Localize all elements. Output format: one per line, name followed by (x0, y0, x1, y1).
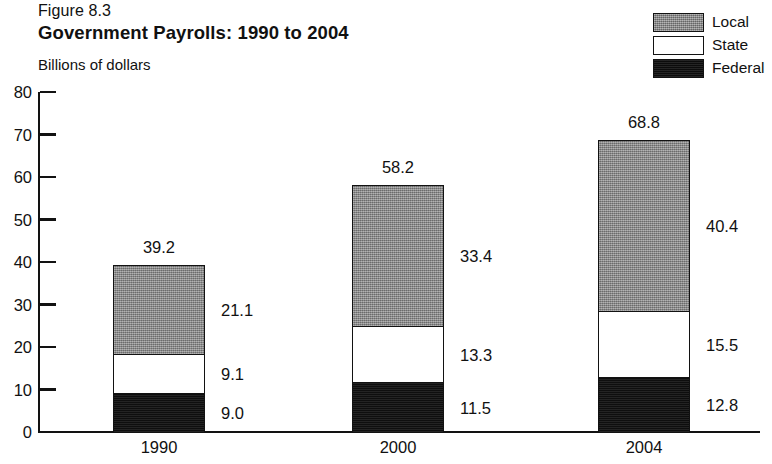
y-tick-label: 60 (2, 169, 32, 186)
stacked-bar-2000[interactable] (352, 0, 444, 464)
bar-total-label-1990: 39.2 (143, 238, 175, 257)
bar-segment-2000-local[interactable] (352, 185, 444, 327)
segment-value-label-2000-federal: 11.5 (460, 398, 491, 417)
y-tick-label: 50 (2, 212, 32, 229)
y-tick-label: 40 (2, 254, 32, 271)
segment-value-label-2000-state: 13.3 (460, 345, 492, 364)
segment-value-label-1990-local: 21.1 (221, 301, 253, 320)
bar-segment-2000-state[interactable] (352, 327, 444, 384)
bar-segment-1990-federal[interactable] (113, 394, 205, 432)
figure-container: Figure 8.3 Government Payrolls: 1990 to … (0, 0, 772, 464)
bar-segment-2004-state[interactable] (598, 312, 690, 378)
segment-value-label-1990-state: 9.1 (221, 365, 244, 384)
segment-value-label-2004-state: 15.5 (706, 335, 738, 354)
bar-segment-2004-local[interactable] (598, 140, 690, 312)
bar-segment-2000-federal[interactable] (352, 383, 444, 432)
stacked-bar-1990[interactable] (113, 0, 205, 464)
y-tick-label: 10 (2, 382, 32, 399)
stacked-bar-2004[interactable] (598, 0, 690, 464)
bar-total-label-2004: 68.8 (628, 113, 660, 132)
y-tick-label: 30 (2, 297, 32, 314)
y-tick-label: 70 (2, 127, 32, 144)
bar-total-label-2000: 58.2 (382, 158, 414, 177)
bar-segment-1990-state[interactable] (113, 355, 205, 394)
segment-value-label-1990-federal: 9.0 (221, 403, 244, 422)
y-tick-label: 0 (2, 424, 32, 441)
bar-segment-1990-local[interactable] (113, 265, 205, 355)
segment-value-label-2004-local: 40.4 (706, 216, 738, 235)
segment-value-label-2000-local: 33.4 (460, 246, 492, 265)
segment-value-label-2004-federal: 12.8 (706, 395, 738, 414)
bar-segment-2004-federal[interactable] (598, 378, 690, 432)
plot-area: 80706050403020100 199020002004 9.09.121.… (0, 0, 772, 464)
y-tick-label: 20 (2, 339, 32, 356)
y-tick-label: 80 (2, 84, 32, 101)
